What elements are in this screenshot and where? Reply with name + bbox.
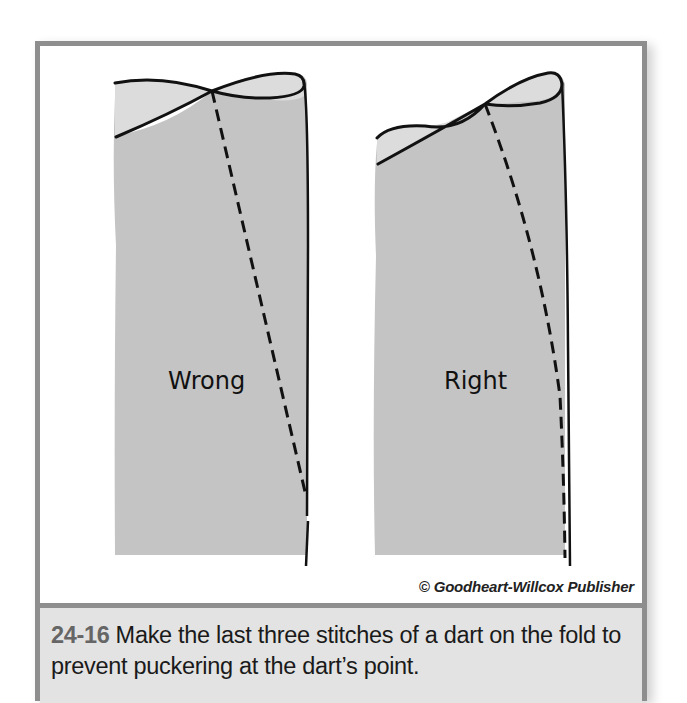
figure-box: Wrong Right © Goodheart-Willcox Publishe…	[35, 41, 647, 701]
figure-number: 24-16	[51, 622, 110, 648]
dart-illustration: Wrong Right	[40, 46, 642, 586]
wrong-panel: Wrong	[114, 73, 308, 566]
dart-diagrams: Wrong Right	[40, 46, 642, 586]
right-panel: Right	[374, 73, 570, 566]
right-label: Right	[444, 367, 507, 395]
wrong-label: Wrong	[168, 367, 245, 395]
figure-caption: 24-16Make the last three stitches of a d…	[40, 603, 642, 703]
caption-text: 24-16Make the last three stitches of a d…	[51, 620, 632, 682]
caption-body: Make the last three stitches of a dart o…	[51, 622, 621, 679]
copyright-credit: © Goodheart-Willcox Publisher	[419, 578, 634, 595]
